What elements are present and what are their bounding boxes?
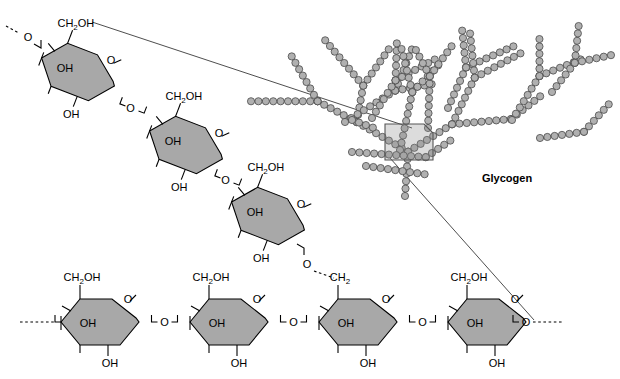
glycogen-bead	[460, 42, 467, 49]
glycogen-bead	[536, 134, 543, 141]
link-right	[234, 176, 242, 185]
glycosidic-oxygen-label: O	[160, 316, 169, 328]
ring-body	[319, 299, 397, 345]
glycogen-bead	[426, 87, 433, 94]
glycogen-bead	[573, 129, 580, 136]
branch-chain: OOCH2OHOHOHOOCH2OHOHOHOOCH2OHOHOHO	[6, 5, 334, 278]
glycogen-bead	[292, 98, 299, 105]
glycogen-bead	[392, 69, 399, 76]
glycogen-bead	[369, 124, 376, 131]
c2-bond	[449, 306, 458, 311]
glycogen-bead	[362, 162, 369, 169]
ring-body	[61, 299, 139, 345]
link-left	[410, 315, 416, 322]
glycogen-bead	[556, 64, 563, 71]
c3-bond	[181, 169, 185, 179]
glycogen-bead	[299, 98, 306, 105]
glycogen-bead	[458, 101, 465, 108]
glycogen-bead	[510, 53, 517, 60]
glycogen-bead	[398, 73, 405, 80]
c3-bond	[73, 96, 77, 106]
glucose-ring-main-3: OCH2OHOH	[319, 271, 397, 369]
glycogen-bead	[421, 171, 428, 178]
glycosidic-oxygen-label: O	[418, 316, 427, 328]
glycogen-bead	[573, 45, 580, 52]
glycogen-bead	[322, 37, 329, 44]
c2-hydroxyl-label: OH	[467, 317, 484, 329]
glycogen-bead	[406, 103, 413, 110]
c3-hydroxyl-label: OH	[171, 181, 188, 193]
glycogen-bead	[512, 110, 519, 117]
glycogen-bead	[392, 167, 399, 174]
c6-bond	[68, 30, 73, 43]
glycogen-bead	[401, 192, 408, 199]
glycogen-bead	[471, 74, 478, 81]
glycogen-bead	[321, 101, 328, 108]
c3-hydroxyl-label: OH	[231, 357, 248, 369]
c3-hydroxyl-label: OH	[253, 252, 270, 264]
glycogen-bead	[496, 49, 503, 56]
c3-bond	[263, 240, 267, 250]
branch-point-oxygen-label: O	[303, 258, 312, 270]
c2-bond	[62, 306, 71, 311]
c2-hydroxyl-label: OH	[57, 62, 74, 74]
glycogen-bead	[255, 98, 262, 105]
glycogen-bead	[536, 58, 543, 65]
glycogen-bead	[354, 111, 361, 118]
glycogen-bead	[536, 35, 543, 42]
glycogen-bead	[368, 114, 375, 121]
glycogen-bead	[405, 74, 412, 81]
glycogen-bead	[537, 93, 544, 100]
glycogen-bead	[376, 102, 383, 109]
glycogen-bead	[485, 117, 492, 124]
glycogen-bead	[419, 60, 426, 67]
ring-oxygen-label: O	[215, 127, 224, 139]
glycogen-bead	[470, 67, 477, 74]
c6-label: CH2OH	[451, 271, 488, 286]
glycogen-bead	[586, 56, 593, 63]
c2-hydroxyl-label: OH	[247, 206, 264, 218]
glycogen-bead	[385, 46, 392, 53]
glycogen-bead	[574, 37, 581, 44]
glycogen-bead	[414, 170, 421, 177]
glycogen-bead	[463, 119, 470, 126]
glycogen-bead	[377, 164, 384, 171]
glycogen-bead	[461, 49, 468, 56]
branch-terminal-oxygen-label: O	[24, 31, 33, 43]
glycogen-bead	[357, 97, 364, 104]
glycogen-bead	[574, 30, 581, 37]
glycosidic-oxygen-label: O	[126, 102, 135, 114]
glucose-ring-main-4: OCH2OHOHOH	[448, 271, 526, 369]
glycogen-bead	[572, 52, 579, 59]
glycogen-bead	[490, 52, 497, 59]
magnified-region-box	[385, 124, 433, 160]
glycogen-bead	[453, 84, 460, 91]
glycogen-bead	[412, 46, 419, 53]
glycogen-bead	[468, 81, 475, 88]
glycogen-bead	[307, 98, 314, 105]
glycogen-bead	[348, 116, 355, 123]
glycogen-bead	[416, 53, 423, 60]
glycogen-tree	[247, 22, 614, 199]
glycogen-bead	[520, 98, 527, 105]
c6-label: CH2OH	[193, 271, 230, 286]
glycogen-bead	[500, 116, 507, 123]
glycogen-bead	[296, 66, 303, 73]
c2-hydroxyl-label: OH	[165, 135, 182, 147]
glycogen-bead	[447, 137, 454, 144]
ring-body	[190, 299, 268, 345]
c2-hydroxyl-label: OH	[209, 317, 226, 329]
glycosidic-link-main-3: O	[410, 315, 436, 328]
c2-bond	[191, 306, 200, 311]
glycogen-bead	[467, 37, 474, 44]
glycogen-bead	[247, 98, 254, 105]
c6-label: CH2OH	[247, 161, 284, 176]
c6-label: CH2OH	[57, 17, 94, 32]
glycogen-bead	[402, 178, 409, 185]
glycogen-bead	[362, 121, 369, 128]
glycogen-bead	[465, 87, 472, 94]
glycogen-bead	[380, 96, 387, 103]
glycogen-bead	[550, 67, 557, 74]
glycogen-bead	[456, 77, 463, 84]
glycogen-bead	[388, 83, 395, 90]
